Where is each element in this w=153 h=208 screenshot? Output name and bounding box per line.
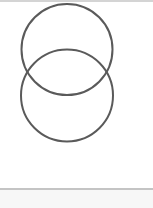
footer-panel bbox=[0, 190, 153, 208]
diagram-canvas bbox=[0, 0, 153, 189]
circles-drawing bbox=[0, 0, 153, 189]
top-border bbox=[0, 0, 153, 2]
